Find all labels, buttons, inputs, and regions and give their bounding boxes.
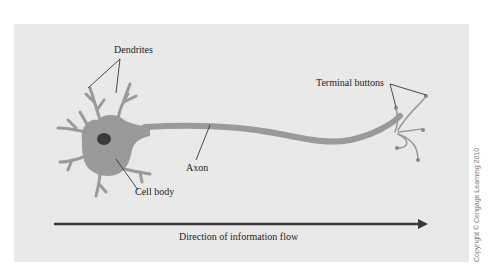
- terminal-buttons-label: Terminal buttons: [316, 77, 384, 88]
- cell-body-label: Cell body: [135, 186, 174, 197]
- axon-label: Axon: [186, 162, 208, 173]
- copyright-notice: Copyright © Cengage Learning 2010: [473, 148, 480, 262]
- flow-arrow: [54, 219, 428, 229]
- flow-direction-label: Direction of information flow: [179, 231, 298, 242]
- dendrites-label: Dendrites: [114, 44, 153, 55]
- terminal-branches: [395, 96, 426, 160]
- axon-shape: [145, 116, 400, 142]
- neuron: [58, 84, 428, 196]
- cell-body-shape: [82, 115, 150, 176]
- nucleus: [97, 133, 111, 145]
